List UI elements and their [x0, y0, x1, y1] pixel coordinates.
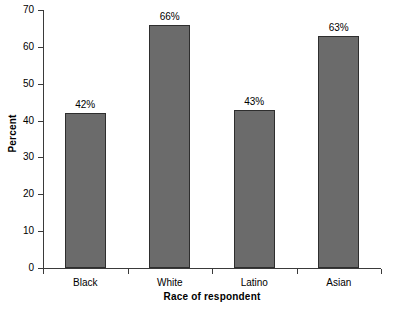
x-axis-category-label: Black: [73, 276, 97, 289]
x-axis-category-label: Asian: [326, 276, 351, 289]
bar-value-label: 43%: [244, 96, 264, 108]
x-axis-category-label: White: [157, 276, 183, 289]
y-axis-tick-label: 0: [28, 261, 34, 274]
y-axis-tick: 20: [38, 194, 43, 195]
x-axis-tick: [381, 269, 382, 274]
y-axis-tick-label: 40: [23, 114, 34, 127]
x-axis-tick: [212, 269, 213, 274]
bar: 42%: [65, 113, 106, 268]
y-axis-tick: 30: [38, 157, 43, 158]
bar-value-label: 66%: [160, 11, 180, 23]
y-axis-title: Percent: [7, 99, 18, 169]
y-axis-tick-label: 10: [23, 224, 34, 237]
bar-value-label: 63%: [329, 22, 349, 34]
x-axis-tick: [43, 269, 44, 274]
x-axis-title: Race of respondent: [43, 291, 381, 302]
bar-value-label: 42%: [75, 99, 95, 111]
bar: 63%: [318, 36, 359, 268]
x-axis-tick: [297, 269, 298, 274]
y-axis-line: [43, 10, 44, 269]
y-axis-tick: 70: [38, 10, 43, 11]
bar-chart: Percent Race of respondent 0102030405060…: [0, 0, 393, 309]
plot-area: 010203040506070 42%66%43%63% BlackWhiteL…: [43, 10, 381, 268]
y-axis-tick: 10: [38, 231, 43, 232]
bar: 43%: [234, 110, 275, 268]
y-axis-tick: 50: [38, 84, 43, 85]
y-axis-tick: 40: [38, 121, 43, 122]
y-axis-tick-label: 70: [23, 3, 34, 16]
x-axis-category-label: Latino: [241, 276, 268, 289]
y-axis-tick-label: 30: [23, 150, 34, 163]
x-axis-tick: [128, 269, 129, 274]
y-axis-tick: 60: [38, 47, 43, 48]
y-axis-tick-label: 60: [23, 40, 34, 53]
y-axis-tick-label: 20: [23, 187, 34, 200]
y-axis-tick-label: 50: [23, 77, 34, 90]
bar: 66%: [149, 25, 190, 268]
